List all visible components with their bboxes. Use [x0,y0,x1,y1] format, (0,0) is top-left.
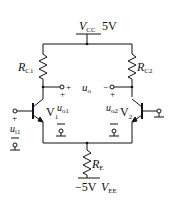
uo2-plus: + [110,89,115,99]
re-label: RE [91,157,104,172]
vcc-label: VCC [79,19,96,34]
uo1-plus: + [60,89,65,99]
uo1-label: uo1 [57,102,70,115]
vee-value: −5V [75,180,97,194]
resistor-re [83,150,91,175]
resistor-rc1 [39,54,47,79]
uo2-label: uo2 [106,102,119,115]
vcc-value: 5V [102,19,117,33]
circuit-diagram: VCC 5V RC1 RC2 + + uo − + V1 uo1 uo2 V2 … [0,0,174,209]
v2-emitter-arrow [132,117,137,122]
output-plus: + [66,82,71,92]
rc2-label: RC2 [136,60,153,75]
v2-label: V2 [120,105,133,121]
ui1-plus: + [12,113,17,123]
v1-emitter-arrow [38,117,43,122]
resistor-rc2 [128,54,136,79]
vee-label: VEE [101,180,117,195]
output-label: uo [82,81,92,95]
rc1-label: RC1 [17,60,34,75]
output-minus: − [103,82,108,92]
ui1-label: ui1 [10,123,21,136]
